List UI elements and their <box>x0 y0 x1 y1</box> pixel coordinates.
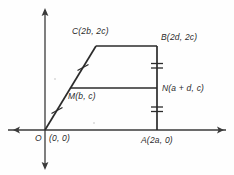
tick-OM <box>52 108 63 114</box>
scan-speck <box>93 122 95 124</box>
y-axis <box>42 8 49 170</box>
point-label-m: M(b, c) <box>68 92 96 101</box>
geometry-figure: C(2b, 2c) B(2d, 2c) N(a + d, c) M(b, c) … <box>0 0 234 175</box>
point-label-n: N(a + d, c) <box>162 84 204 93</box>
tick-MC-mark-1 <box>78 65 89 71</box>
tick-MC <box>78 65 89 71</box>
scan-speck <box>54 78 56 80</box>
origin-label-o: O <box>35 134 42 143</box>
origin-coordinates: (0, 0) <box>49 134 70 143</box>
vertex-label-a: A(2a, 0) <box>141 136 173 145</box>
vertex-label-c: C(2b, 2c) <box>72 27 109 36</box>
vertex-label-b: B(2d, 2c) <box>161 33 197 42</box>
tick-OM-mark-1 <box>52 108 63 114</box>
